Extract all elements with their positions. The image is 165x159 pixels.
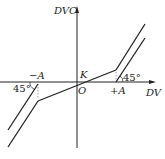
x-axis-label: DV xyxy=(146,88,161,98)
dead-zone-characteristic-diagram: DVC DV O K −A +A 45° 45° xyxy=(0,0,165,159)
y-axis-label: DVC xyxy=(54,6,77,16)
pos-threshold-label: +A xyxy=(110,86,126,96)
right-upper-line xyxy=(116,24,145,70)
neg-threshold-label: −A xyxy=(29,71,45,81)
slope-label: K xyxy=(80,70,87,80)
left-angle-label: 45° xyxy=(13,84,31,94)
x-axis-arrow-icon xyxy=(149,80,156,84)
right-angle-label: 45° xyxy=(123,73,141,83)
origin-label: O xyxy=(78,86,86,96)
